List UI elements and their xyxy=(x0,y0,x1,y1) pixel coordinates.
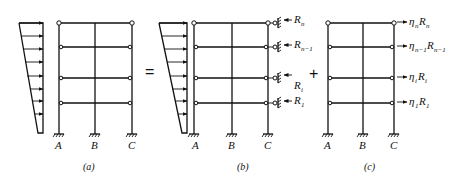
svg-text:R: R xyxy=(293,94,301,106)
svg-text:R: R xyxy=(293,79,301,91)
column-label-a-B: B xyxy=(91,139,98,151)
triangular-load-a xyxy=(19,23,43,133)
caption-a: (a) xyxy=(83,161,95,173)
structural-decomposition-diagram: A B C (a) = xyxy=(0,0,452,180)
fixed-supports-a xyxy=(53,134,137,137)
svg-text:R: R xyxy=(418,15,426,27)
svg-text:n: n xyxy=(426,22,430,30)
column-label-a-A: A xyxy=(54,139,62,151)
frame-a xyxy=(57,21,134,134)
svg-text:i: i xyxy=(425,77,427,85)
panel-c: η n R n η n−1 R n−1 η i R i η 1 R 1 xyxy=(322,15,446,173)
caption-c: (c) xyxy=(364,161,376,173)
svg-text:η: η xyxy=(409,70,414,82)
svg-text:R: R xyxy=(418,95,426,107)
column-label-a-C: C xyxy=(128,139,136,151)
triangular-load-b xyxy=(159,23,187,133)
restraint-1 xyxy=(268,97,281,108)
column-label-c-A: A xyxy=(323,139,331,151)
restraint-n-1 xyxy=(268,41,281,52)
fixed-supports-b xyxy=(188,134,273,137)
column-label-b-A: A xyxy=(191,139,199,151)
svg-text:n−1: n−1 xyxy=(301,45,313,53)
reaction-arrows-b: R n R n−1 R i R 1 xyxy=(284,13,313,109)
applied-loads-c: η n R n η n−1 R n−1 η i R i η 1 R 1 xyxy=(397,15,446,110)
frame-b xyxy=(192,21,270,134)
svg-text:n−1: n−1 xyxy=(434,46,446,54)
caption-b: (b) xyxy=(237,161,249,173)
fixed-supports-c xyxy=(322,134,399,137)
panel-b: R n R n−1 R i R 1 A B C (b) xyxy=(159,13,313,173)
panel-a: A B C (a) xyxy=(19,21,137,173)
svg-text:1: 1 xyxy=(415,102,419,110)
restraint-i xyxy=(268,72,281,83)
svg-text:n−1: n−1 xyxy=(415,46,427,54)
svg-text:1: 1 xyxy=(301,101,305,109)
svg-text:1: 1 xyxy=(426,102,430,110)
svg-text:R: R xyxy=(417,70,425,82)
plus-sign: + xyxy=(309,65,318,82)
svg-text:i: i xyxy=(301,86,303,94)
equals-sign: = xyxy=(145,63,154,80)
column-label-b-C: C xyxy=(264,139,272,151)
svg-text:R: R xyxy=(293,38,301,50)
restraint-n xyxy=(270,17,281,28)
column-label-c-B: B xyxy=(359,139,366,151)
svg-text:η: η xyxy=(409,39,414,51)
lateral-restraints-b xyxy=(268,17,281,108)
svg-text:η: η xyxy=(409,15,414,27)
svg-text:R: R xyxy=(426,39,434,51)
svg-text:R: R xyxy=(293,13,301,25)
svg-text:i: i xyxy=(415,77,417,85)
svg-text:n: n xyxy=(301,20,305,28)
column-label-c-C: C xyxy=(390,139,398,151)
svg-text:η: η xyxy=(409,95,414,107)
frame-c xyxy=(326,21,396,134)
column-label-b-B: B xyxy=(228,139,235,151)
